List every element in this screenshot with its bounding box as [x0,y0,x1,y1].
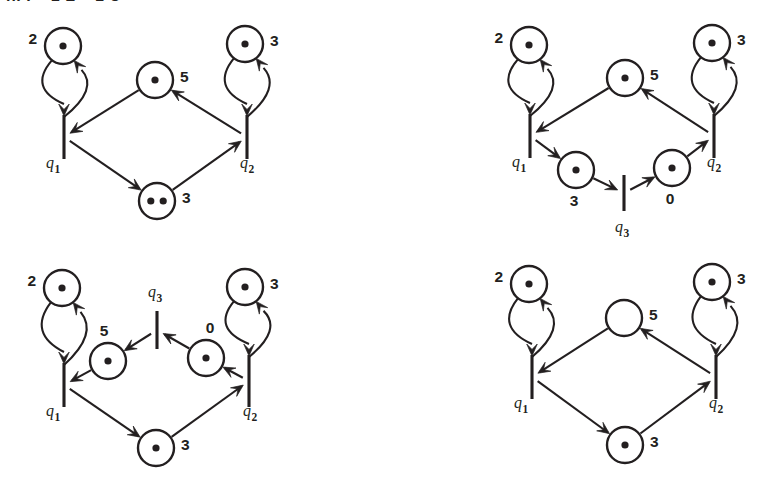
arc-line [538,88,609,131]
place-circle[interactable] [139,183,175,219]
place-node[interactable]: 3 [558,152,594,209]
transition-node[interactable]: q2 [707,114,722,174]
arc-loop-path [714,67,737,116]
place-node[interactable]: 0 [654,150,690,207]
transition-label-subscript: 2 [716,162,722,174]
token-dot [241,40,248,47]
transition-node[interactable]: q1 [512,114,530,174]
petri-net-panel-bottom-left: 25033q1q2q3 [27,269,279,466]
transition-node[interactable]: q1 [46,363,64,423]
transition-label-subscript: 2 [252,411,258,423]
transition-label: q3 [148,283,163,304]
token-dot [572,166,579,173]
token-dot [621,74,628,81]
arc-arrowhead [73,302,85,315]
transition-node[interactable]: q1 [46,115,64,175]
place-circle[interactable] [606,300,642,336]
token-dot [525,41,532,48]
token-dot [708,39,715,46]
transition-label-subscript: 2 [718,403,724,415]
place-label: 5 [180,68,189,85]
place-label: 0 [666,190,675,207]
arc-loop-path [42,60,64,104]
place-node[interactable]: 3 [227,26,279,62]
arc-loop-path [42,302,64,352]
arc-loop-path [692,57,714,103]
place-node[interactable]: 3 [694,25,746,61]
place-node[interactable]: 2 [494,266,547,302]
place-label: 5 [649,306,658,323]
petri-net-panel-top-left: 2533q1q2 [28,26,279,219]
arc-loop-path [530,69,553,116]
arc-line [642,329,710,373]
token-dot [151,76,158,83]
transition-label: q2 [240,154,255,175]
place-node[interactable]: 2 [28,28,81,64]
place-label: 3 [270,32,279,49]
petri-net-canvas: 2533q1q225330q1q2q325033q1q2q32533q1q2 [0,0,764,483]
arc-arrowhead [538,362,551,373]
arc-arrowhead [536,122,549,133]
arc-loop-path [225,58,247,104]
transition-label-subscript: 1 [523,403,529,415]
petri-net-figure-sheet: n. I + 1 L + 1 U 2533q1q225330q1q2q32503… [0,0,764,483]
transition-node[interactable]: q3 [148,283,163,349]
transition-label-subscript: 2 [249,163,255,175]
transition-node[interactable]: q2 [243,355,258,423]
transition-node[interactable]: q2 [709,355,724,415]
place-label: 3 [570,192,579,209]
arc-line [70,141,140,189]
arc-arrowhead [641,88,654,99]
transition-label-subscript: 3 [624,227,630,239]
arc-loop-path [509,298,532,344]
transition-node[interactable]: q2 [240,115,255,175]
transition-node[interactable]: q1 [514,355,532,415]
arc-line [70,389,139,436]
place-node[interactable]: 2 [27,270,80,306]
arc-line [640,382,708,433]
transition-label: q1 [46,154,61,175]
transition-node[interactable]: q3 [615,175,630,239]
transition-label: q2 [707,153,722,174]
arc-line [173,142,240,190]
place-label: 5 [650,66,659,83]
place-node[interactable]: 3 [139,183,191,219]
arc-loop-path [225,301,249,344]
arc-line [538,381,608,432]
token-dot [59,42,66,49]
transition-label-subscript: 3 [157,292,163,304]
token-dot [708,278,715,285]
transition-label-subscript: 1 [55,163,61,175]
token-dot [668,164,675,171]
arc-line [643,90,708,133]
place-label: 3 [737,31,746,48]
place-label: 0 [206,319,215,336]
clipped-heading-text: n. I + 1 L + 1 U [6,0,121,5]
place-label: 3 [650,433,659,450]
place-label: 2 [28,30,37,47]
arc-line [173,91,241,133]
place-node[interactable]: 2 [494,27,547,63]
place-node[interactable]: 5 [90,322,126,379]
arc-loop-path [64,70,87,117]
token-dot [152,444,159,451]
arc-loop-path [249,311,270,357]
token-dot [202,354,209,361]
arc-loop-path [532,308,554,357]
place-node[interactable]: 0 [188,319,224,376]
place-label: 2 [27,272,36,289]
place-node[interactable]: 3 [227,269,279,305]
transition-label-subscript: 1 [55,411,61,423]
arc-line [172,386,242,437]
place-node[interactable]: 3 [138,430,190,466]
token-dot [525,280,532,287]
place-node[interactable]: 3 [694,264,746,300]
place-label: 3 [737,270,746,287]
token-dot [104,357,111,364]
transition-label: q3 [615,218,630,239]
arc-loop-path [247,68,270,117]
place-node[interactable]: 3 [607,427,659,463]
token-dot [58,284,65,291]
transition-label: q2 [243,402,258,423]
arc-arrowhead [171,90,184,101]
